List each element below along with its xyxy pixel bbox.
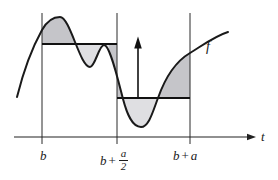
tick-label-b-plus-a-half: b + a 2	[100, 148, 128, 172]
t-axis-arrow-head	[247, 134, 256, 140]
tick-mid-plus: +	[107, 154, 118, 167]
fraction-numerator: a	[119, 148, 129, 160]
t-axis	[14, 134, 256, 140]
tick-label-b: b	[40, 149, 47, 162]
tick-right-addend: a	[191, 149, 198, 162]
function-label: f	[206, 40, 210, 54]
tick-label-b-plus-a: b + a	[173, 149, 197, 162]
axis-label: t	[261, 130, 265, 143]
fraction-denominator: 2	[119, 161, 129, 173]
up-arrow	[134, 37, 142, 98]
tick-right-plus: +	[180, 149, 191, 162]
up-arrow-head	[134, 37, 142, 49]
mean-value-diagram: f t b b + a 2 b + a	[0, 0, 278, 180]
fraction-a-over-2: a 2	[119, 148, 129, 172]
